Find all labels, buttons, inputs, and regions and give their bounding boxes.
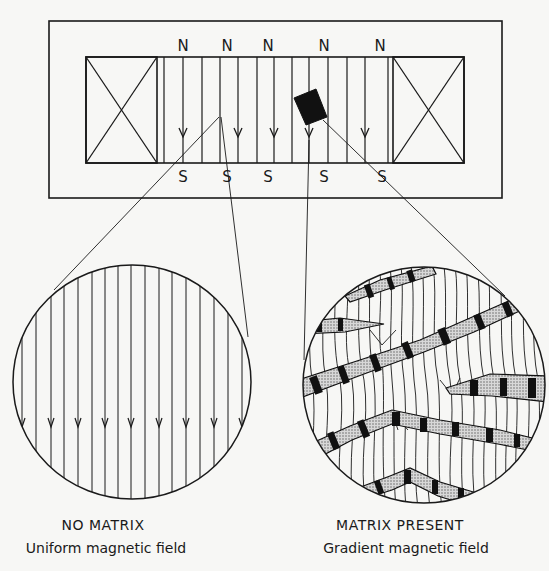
right-caption: MATRIX PRESENT Gradient magnetic field [323, 517, 489, 556]
south-label: S [222, 168, 232, 186]
left-magnified-view [13, 260, 251, 510]
north-pole-labels: N N N N N [177, 37, 385, 55]
north-label: N [177, 37, 188, 55]
field-region [86, 57, 464, 163]
left-coil [86, 57, 157, 163]
south-pole-labels: S S S S S [178, 168, 387, 186]
magnet-housing [49, 21, 502, 198]
left-caption: NO MATRIX Uniform magnetic field [26, 517, 186, 556]
left-caption-title: NO MATRIX [61, 517, 144, 533]
north-label: N [374, 37, 385, 55]
north-label: N [262, 37, 273, 55]
field-lines [164, 57, 388, 163]
south-label: S [319, 168, 329, 186]
south-label: S [178, 168, 188, 186]
leader-lines [54, 117, 505, 360]
diagram-canvas: N N N N N S S S S S [0, 0, 549, 571]
south-label: S [263, 168, 273, 186]
north-label: N [221, 37, 232, 55]
right-caption-title: MATRIX PRESENT [336, 517, 464, 533]
band-striations [309, 269, 536, 500]
left-caption-subtitle: Uniform magnetic field [26, 540, 186, 556]
magnet-assembly [49, 21, 502, 198]
uniform-field-circle [13, 265, 251, 499]
north-label: N [318, 37, 329, 55]
right-caption-subtitle: Gradient magnetic field [323, 540, 489, 556]
matrix-element [294, 89, 327, 125]
hgms-diagram: N N N N N S S S S S [0, 0, 549, 571]
right-magnified-view [298, 265, 548, 510]
right-coil [393, 57, 464, 163]
